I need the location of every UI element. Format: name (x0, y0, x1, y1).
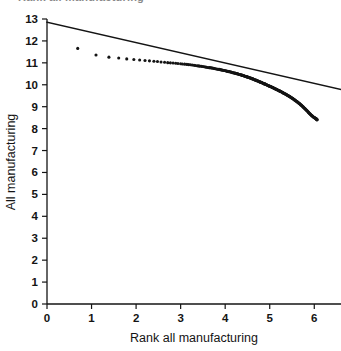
data-point (138, 58, 141, 61)
y-tick-label: 11 (26, 57, 39, 69)
data-point (76, 47, 79, 50)
data-point (156, 60, 159, 63)
x-tick-label: 2 (133, 312, 139, 324)
scatter-plot: 012345678910111213 0123456 Rank all manu… (0, 0, 341, 351)
y-tick-label: 1 (32, 276, 39, 288)
data-point (163, 61, 166, 64)
data-point (117, 56, 120, 59)
figure-container: Rank all manufacturing 01234567891011121… (0, 0, 341, 351)
y-tick-label: 3 (32, 232, 38, 244)
x-tick-label: 5 (267, 312, 274, 324)
y-tick-label: 0 (32, 298, 38, 310)
data-point (152, 60, 155, 63)
axes-group (47, 19, 341, 304)
regression-line (47, 22, 341, 89)
data-point (176, 62, 179, 65)
y-tick-label: 13 (25, 13, 38, 25)
x-tick-label: 4 (222, 312, 229, 324)
data-point (169, 61, 172, 64)
data-point (315, 118, 318, 121)
data-point (159, 60, 162, 63)
y-tick-label: 10 (25, 79, 38, 91)
y-axis-title: All manufacturing (4, 114, 18, 211)
y-axis-ticks: 012345678910111213 (25, 13, 47, 310)
y-tick-label: 12 (25, 35, 38, 47)
y-tick-label: 5 (32, 188, 39, 200)
data-point (125, 57, 128, 60)
x-tick-label: 6 (311, 312, 317, 324)
y-tick-label: 6 (32, 166, 38, 178)
y-tick-label: 8 (32, 123, 39, 135)
data-point (172, 62, 175, 65)
data-point (166, 61, 169, 64)
y-tick-label: 4 (32, 210, 39, 222)
x-tick-label: 1 (88, 312, 95, 324)
x-tick-label: 3 (177, 312, 183, 324)
data-point (107, 56, 110, 59)
data-point-group (76, 47, 318, 122)
y-tick-label: 2 (32, 254, 38, 266)
data-point (132, 58, 135, 61)
y-tick-label: 9 (32, 101, 38, 113)
y-tick-label: 7 (32, 145, 38, 157)
data-point (148, 59, 151, 62)
data-point (143, 59, 146, 62)
x-axis-ticks: 0123456 (44, 304, 318, 324)
regression-line-group (47, 22, 341, 89)
x-tick-label: 0 (44, 312, 50, 324)
data-point (94, 53, 97, 56)
x-axis-title: Rank all manufacturing (130, 331, 258, 345)
